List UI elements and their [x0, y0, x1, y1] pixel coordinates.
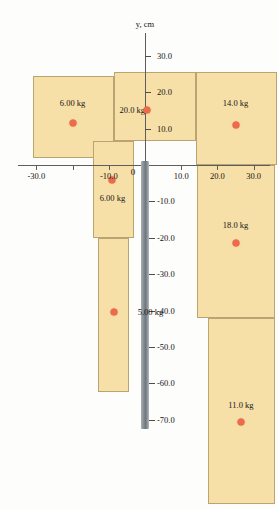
- block-20kg-mass-label: 20.0 kg: [120, 106, 146, 115]
- y-axis-rod-negative: [141, 161, 149, 429]
- x-tick-10: [181, 165, 182, 170]
- y-tick-neg20: [149, 238, 155, 239]
- x-tick-label-10: 10.0: [174, 172, 189, 181]
- y-tick-label-neg70: -70.0: [157, 416, 175, 425]
- y-tick-neg30: [149, 274, 155, 275]
- y-tick-label-20: 20.0: [157, 88, 172, 97]
- y-tick-label-neg40: -40.0: [157, 306, 175, 315]
- y-tick-label-10: 10.0: [157, 124, 172, 133]
- y-tick-neg50: [149, 347, 155, 348]
- block-6kg-lower-mass-label: 6.00 kg: [100, 194, 126, 203]
- block-14kg-mass-label: 14.0 kg: [223, 99, 249, 108]
- y-tick-neg10: [149, 201, 155, 202]
- block-5kg-center-of-mass-dot: [111, 309, 118, 316]
- block-6kg-upper-center-of-mass-dot: [69, 120, 76, 127]
- y-tick-label-neg10: -10.0: [157, 197, 175, 206]
- y-tick-label-neg60: -60.0: [157, 379, 175, 388]
- y-tick-label-neg20: -20.0: [157, 234, 175, 243]
- x-tick-30: [254, 165, 255, 170]
- y-tick-neg60: [149, 383, 155, 384]
- block-11kg: [208, 318, 275, 504]
- block-14kg: [196, 72, 277, 165]
- y-tick-10: [145, 129, 151, 130]
- x-tick-label-30: 30.0: [246, 172, 261, 181]
- y-axis-title: y, cm: [136, 20, 154, 29]
- x-tick-label-neg10: -10.0: [100, 172, 118, 181]
- block-11kg-center-of-mass-dot: [237, 418, 244, 425]
- block-11kg-mass-label: 11.0 kg: [228, 401, 253, 410]
- block-20kg-center-of-mass-dot: [143, 107, 150, 114]
- block-18kg-center-of-mass-dot: [232, 240, 239, 247]
- y-tick-label-neg50: -50.0: [157, 343, 175, 352]
- x-tick-label-20: 20.0: [210, 172, 225, 181]
- y-axis-line-positive: [145, 33, 146, 165]
- y-tick-neg70: [149, 420, 155, 421]
- x-tick--10: [109, 165, 110, 170]
- block-18kg-mass-label: 18.0 kg: [223, 221, 249, 230]
- physics-diagram: 6.00 kg20.0 kg14.0 kg6.00 kg5.00 kg18.0 …: [0, 0, 278, 509]
- y-tick-20: [145, 92, 151, 93]
- x-tick--20: [73, 165, 74, 170]
- y-tick-label-30: 30.0: [157, 52, 172, 61]
- block-14kg-center-of-mass-dot: [232, 121, 239, 128]
- x-tick-20: [217, 165, 218, 170]
- x-tick--30: [36, 165, 37, 170]
- origin-label: 0: [131, 168, 136, 177]
- block-6kg-lower: [93, 141, 135, 237]
- block-6kg-upper-mass-label: 6.00 kg: [60, 99, 86, 108]
- y-tick-label-neg30: -30.0: [157, 270, 175, 279]
- x-tick-label-neg30: -30.0: [28, 172, 46, 181]
- y-tick-30: [145, 56, 151, 57]
